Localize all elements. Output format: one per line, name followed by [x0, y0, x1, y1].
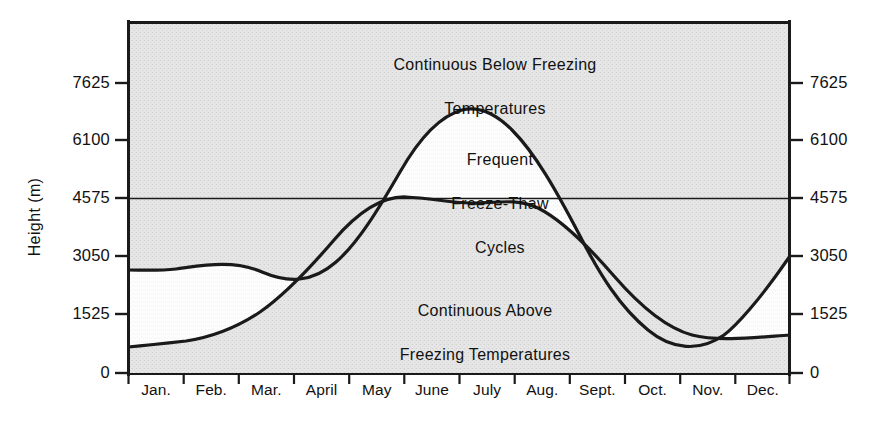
annotation-continuous-below-freezing: Continuous Below Freezing Temperatures — [330, 32, 660, 142]
annotation-frequent-freeze-thaw-cycles: Frequent Freeze-Thaw Cycles — [400, 127, 600, 282]
y-tick-label-right-1525: 1525 — [810, 304, 876, 323]
annotation-freeze-thaw-line3: Cycles — [400, 237, 600, 259]
chart-container: Height (m) — [0, 0, 885, 426]
x-tick-label-dec: Dec. — [735, 381, 790, 399]
y-tick-label-right-6100: 6100 — [810, 130, 876, 149]
annotation-below-freezing-line1: Continuous Below Freezing — [330, 54, 660, 76]
x-tick-label-oct: Oct. — [625, 381, 680, 399]
y-axis-ticks-left — [115, 83, 128, 373]
x-tick-label-mar: Mar. — [239, 381, 294, 399]
y-tick-label-left-4575: 4575 — [44, 188, 110, 207]
y-tick-label-right-7625: 7625 — [810, 73, 876, 92]
annotation-above-freezing-line1: Continuous Above — [340, 300, 630, 322]
y-tick-label-right-0: 0 — [810, 363, 876, 382]
y-tick-label-left-3050: 3050 — [44, 246, 110, 265]
annotation-freeze-thaw-line2: Freeze-Thaw — [400, 193, 600, 215]
x-tick-label-feb: Feb. — [184, 381, 239, 399]
x-tick-label-nov: Nov. — [680, 381, 735, 399]
y-axis-ticks-right — [790, 83, 803, 373]
y-tick-label-right-4575: 4575 — [810, 188, 876, 207]
y-tick-label-left-1525: 1525 — [44, 304, 110, 323]
annotation-freeze-thaw-line1: Frequent — [400, 149, 600, 171]
y-tick-label-left-7625: 7625 — [44, 73, 110, 92]
y-tick-label-left-0: 0 — [44, 363, 110, 382]
y-tick-label-right-3050: 3050 — [810, 246, 876, 265]
y-tick-label-left-6100: 6100 — [44, 130, 110, 149]
x-tick-label-jan: Jan. — [129, 381, 184, 399]
annotation-continuous-above-freezing: Continuous Above Freezing Temperatures — [340, 278, 630, 388]
annotation-above-freezing-line2: Freezing Temperatures — [340, 344, 630, 366]
annotation-below-freezing-line2: Temperatures — [330, 98, 660, 120]
